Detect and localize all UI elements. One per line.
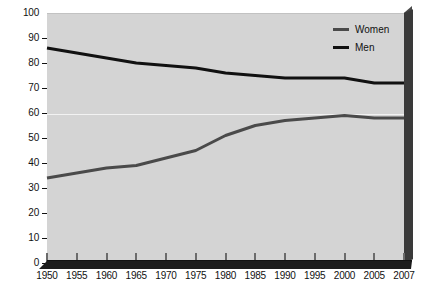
y-tick-label: 70 <box>28 82 39 94</box>
y-tick-10: 10 <box>28 232 47 244</box>
legend-label-women: Women <box>355 24 389 35</box>
y-tick-label: 20 <box>28 207 39 219</box>
y-tick-label: 40 <box>28 157 39 169</box>
x-tick-label: 2007 <box>393 270 414 281</box>
x-tick-label: 1960 <box>96 270 117 281</box>
x-tick-label: 1965 <box>126 270 147 281</box>
y-tick-50: 50 <box>28 132 47 144</box>
x-tick-label: 1985 <box>245 270 266 281</box>
y-tick-label: 50 <box>28 132 39 144</box>
y-tick-label: 80 <box>28 57 39 69</box>
y-tick-label: 10 <box>28 232 39 244</box>
y-tick-40: 40 <box>28 157 47 169</box>
y-tick-90: 90 <box>28 32 47 44</box>
x-tick-label: 1990 <box>274 270 295 281</box>
chart-legend: Women Men <box>333 20 403 56</box>
x-tick-label: 1970 <box>155 270 176 281</box>
series-line-women <box>47 116 404 179</box>
y-tick-20: 20 <box>28 207 47 219</box>
y-tick-60: 60 <box>28 107 47 119</box>
y-tick-label: 100 <box>23 7 39 19</box>
x-tick-label: 1950 <box>36 270 57 281</box>
x-axis-3d-bar <box>39 261 412 269</box>
x-tick-label: 1975 <box>185 270 206 281</box>
x-tick-label: 1980 <box>215 270 236 281</box>
y-axis: 0102030405060708090100 <box>0 0 47 295</box>
x-tick-label: 2005 <box>364 270 385 281</box>
plot-3d-right-shadow <box>404 9 413 263</box>
y-tick-label: 30 <box>28 182 39 194</box>
legend-item-men: Men <box>333 38 403 56</box>
x-axis-labels: 1950195519601965197019751980198519901995… <box>0 270 424 288</box>
y-tick-100: 100 <box>23 7 47 19</box>
y-tick-70: 70 <box>28 82 47 94</box>
x-tick-label: 1955 <box>66 270 87 281</box>
y-tick-80: 80 <box>28 57 47 69</box>
y-tick-label: 60 <box>28 107 39 119</box>
y-tick-label: 0 <box>34 257 39 269</box>
x-tick-label: 1995 <box>304 270 325 281</box>
line-chart: 0102030405060708090100 19501955196019651… <box>0 0 424 295</box>
y-tick-label: 90 <box>28 32 39 44</box>
legend-label-men: Men <box>355 42 374 53</box>
legend-item-women: Women <box>333 20 403 38</box>
x-tick-label: 2000 <box>334 270 355 281</box>
legend-swatch-women <box>333 28 349 31</box>
legend-swatch-men <box>333 46 349 49</box>
y-tick-30: 30 <box>28 182 47 194</box>
